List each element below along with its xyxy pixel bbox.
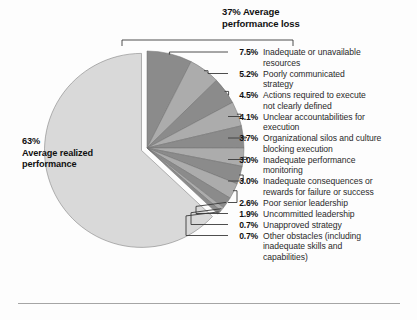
legend-label-line: Inadequate performance	[263, 155, 356, 166]
legend-label-line: resources	[263, 58, 361, 69]
legend-percent: 3.0%	[228, 155, 258, 166]
loss-heading-line2: performance loss	[222, 18, 372, 30]
legend-label-line: Inadequate or unavailable	[263, 47, 361, 58]
legend-percent: 0.7%	[228, 220, 258, 231]
legend-label-line: not clearly defined	[263, 101, 366, 112]
legend-label: Organizational silos and cultureblocking…	[263, 133, 381, 154]
legend-label-line: capabilities)	[263, 252, 361, 263]
legend-label-line: execution	[263, 122, 365, 133]
legend-row: 2.6%Poor senior leadership	[228, 198, 417, 209]
legend-percent: 3.0%	[228, 176, 258, 187]
legend-percent: 4.1%	[228, 112, 258, 123]
legend-row: 5.2%Poorly communicatedstrategy	[228, 69, 417, 90]
legend-label-line: Poorly communicated	[263, 69, 345, 80]
legend-row: 1.9%Uncommitted leadership	[228, 209, 417, 220]
loss-heading-line1: 37% Average	[222, 6, 372, 18]
legend-label-line: Unclear accountabilities for	[263, 112, 365, 123]
legend-percent: 7.5%	[228, 47, 258, 58]
realized-performance-label: 63% Average realized performance	[22, 136, 134, 171]
legend-percent: 5.2%	[228, 69, 258, 80]
legend-row: 0.7%Other obstacles (includinginadequate…	[228, 231, 417, 263]
legend-label-line: Unapproved strategy	[263, 220, 342, 231]
legend-row: 0.7%Unapproved strategy	[228, 220, 417, 231]
legend-row: 3.0%Inadequate performancemonitoring	[228, 155, 417, 176]
legend-row: 3.7%Organizational silos and culturebloc…	[228, 133, 417, 154]
legend-label-line: Organizational silos and culture	[263, 133, 381, 144]
realized-performance-line2: Average realized	[22, 148, 134, 160]
legend-label-line: strategy	[263, 79, 345, 90]
legend-label-line: rewards for failure or success	[263, 187, 374, 198]
legend-percent: 2.6%	[228, 198, 258, 209]
leader-line	[204, 71, 228, 74]
legend-row: 7.5%Inadequate or unavailableresources	[228, 47, 417, 68]
loss-bracket	[122, 40, 293, 46]
legend-label: Inadequate or unavailableresources	[263, 47, 361, 68]
realized-performance-line3: performance	[22, 159, 134, 171]
legend-label: Other obstacles (includinginadequate ski…	[263, 231, 361, 263]
figure-canvas: 37% Average performance loss 63% Average…	[0, 0, 417, 320]
realized-performance-pct: 63%	[22, 136, 134, 148]
legend-label: Actions required to executenot clearly d…	[263, 90, 366, 111]
legend-label: Unclear accountabilities forexecution	[263, 112, 365, 133]
legend-percent: 1.9%	[228, 209, 258, 220]
legend-label: Inadequate consequences orrewards for fa…	[263, 176, 374, 197]
legend-label-line: blocking execution	[263, 144, 381, 155]
legend-label-line: inadequate skills and	[263, 241, 361, 252]
legend-label-line: Other obstacles (including	[263, 231, 361, 242]
loss-heading: 37% Average performance loss	[222, 6, 372, 29]
legend-percent: 4.5%	[228, 90, 258, 101]
legend-label: Uncommitted leadership	[263, 209, 355, 220]
legend-label: Poor senior leadership	[263, 198, 348, 209]
legend-row: 4.5%Actions required to executenot clear…	[228, 90, 417, 111]
legend-label: Inadequate performancemonitoring	[263, 155, 356, 176]
legend-label-line: Actions required to execute	[263, 90, 366, 101]
leader-line	[169, 52, 228, 55]
legend-row: 3.0%Inadequate consequences orrewards fo…	[228, 176, 417, 197]
legend-label-line: Poor senior leadership	[263, 198, 348, 209]
legend-row: 4.1%Unclear accountabilities forexecutio…	[228, 112, 417, 133]
legend-percent: 0.7%	[228, 231, 258, 242]
legend-label-line: monitoring	[263, 165, 356, 176]
legend-label-line: Uncommitted leadership	[263, 209, 355, 220]
legend-label: Unapproved strategy	[263, 220, 342, 231]
legend-label-line: Inadequate consequences or	[263, 176, 374, 187]
legend-label: Poorly communicatedstrategy	[263, 69, 345, 90]
legend-percent: 3.7%	[228, 133, 258, 144]
